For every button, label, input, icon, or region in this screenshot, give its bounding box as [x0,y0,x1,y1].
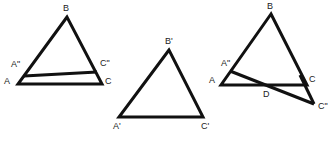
label-a: A [4,76,10,86]
label-b-2: B [267,1,273,11]
label-a1: A' [113,121,121,131]
figure-1: B A C A" C" [4,3,112,86]
label-c1: C' [201,121,209,131]
diagram-canvas: B A C A" C" B' A' C' B A C A" C" D [0,0,331,145]
figure-2: B' A' C' [113,36,209,131]
label-b: B [63,3,69,13]
label-d: D [263,89,270,99]
label-b1: B' [165,36,173,46]
label-c2: C" [100,58,110,68]
label-a-2: A [209,75,215,85]
figure-3: B A C A" C" D [209,1,328,111]
label-c: C [105,76,112,86]
triangle-a1b1c1 [119,50,203,117]
label-a2: A" [11,59,20,69]
label-a2-2: A" [221,58,230,68]
label-c2-2: C" [318,101,328,111]
segment-a2-c2 [24,72,97,76]
triangle-abc-2 [221,14,307,85]
label-c-2: C [309,74,316,84]
